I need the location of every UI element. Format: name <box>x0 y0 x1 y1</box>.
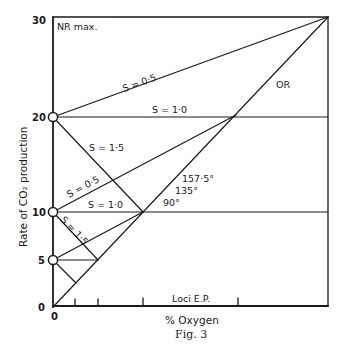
loci-ep-label: Loci E.P. <box>172 293 210 304</box>
y-tick-30: 30 <box>32 15 46 26</box>
or-line <box>53 17 328 307</box>
x-origin-label: 0 <box>51 311 58 322</box>
diagram: 30 20 10 5 0 0 NR max. OR Loci E.P. S = … <box>0 0 343 354</box>
point-5 <box>48 255 57 264</box>
label-20-s10: S = 1·0 <box>152 104 187 115</box>
label-10-s10: S = 1·0 <box>88 199 123 210</box>
angle-135: 135° <box>175 185 198 196</box>
label-10-s15: S = 1·5 <box>59 214 91 247</box>
angle-90: 90° <box>163 197 180 208</box>
nr-max-label: NR max. <box>57 21 97 32</box>
point-20 <box>48 112 57 121</box>
line-20-s05 <box>53 17 328 117</box>
y-axis-label: Rate of CO₂ production <box>17 127 29 247</box>
y-tick-0: 0 <box>38 302 45 313</box>
or-label: OR <box>276 79 290 90</box>
y-tick-20: 20 <box>32 112 46 123</box>
y-tick-10: 10 <box>32 207 46 218</box>
figure-caption: Fig. 3 <box>175 328 207 341</box>
label-20-s05: S = 0·5 <box>121 72 158 94</box>
y-tick-5: 5 <box>38 255 45 266</box>
label-20-s15: S = 1·5 <box>89 142 124 153</box>
point-10 <box>48 207 57 216</box>
x-axis-label: % Oxygen <box>165 314 219 326</box>
line-10-s05 <box>53 115 236 212</box>
line-20-s15 <box>53 117 143 212</box>
angle-157-5: 157·5° <box>182 173 214 184</box>
